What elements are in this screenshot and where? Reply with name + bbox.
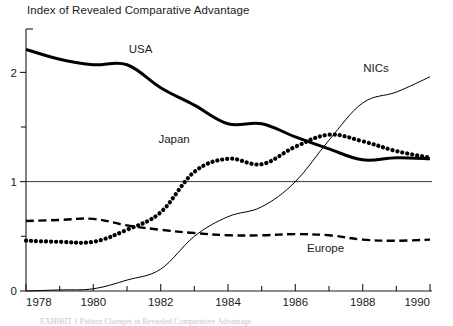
y-tick-label-0: 0 (11, 285, 17, 297)
x-tick-label-1978: 1978 (26, 296, 52, 308)
series-line-nics (26, 77, 430, 291)
series-label-usa: USA (129, 43, 153, 55)
chart-plot-area: 2 1 0 1978 1980 1982 1984 1986 1988 1990 (0, 0, 453, 326)
x-tick-label-1990: 1990 (404, 296, 430, 308)
x-tick-label-1988: 1988 (350, 296, 376, 308)
series-layer (26, 49, 430, 291)
series-label-europe: Europe (307, 242, 344, 254)
x-tick-label-1986: 1986 (283, 296, 309, 308)
y-axis-ticks (20, 72, 26, 291)
series-line-europe (26, 219, 430, 241)
x-tick-label-1980: 1980 (81, 296, 107, 308)
figure-caption: EXHIBIT 1 Pattern Changes in Revealed Co… (40, 317, 252, 326)
figure-container: Index of Revealed Comparative Advantage … (0, 0, 453, 326)
y-tick-label-1: 1 (11, 176, 17, 188)
x-tick-label-1984: 1984 (215, 296, 241, 308)
y-tick-label-2: 2 (11, 67, 17, 79)
series-line-japan (26, 135, 430, 243)
x-tick-label-1982: 1982 (148, 296, 174, 308)
series-label-japan: Japan (158, 133, 189, 145)
series-label-nics: NICs (363, 62, 389, 74)
